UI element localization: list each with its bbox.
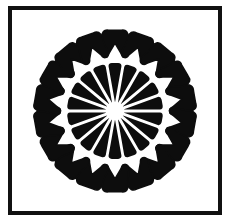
artwork-page (0, 0, 233, 224)
tooth-rosette (15, 11, 215, 211)
rectangular-border (8, 6, 222, 215)
rosette-container (12, 10, 218, 211)
center-hub (106, 102, 124, 120)
